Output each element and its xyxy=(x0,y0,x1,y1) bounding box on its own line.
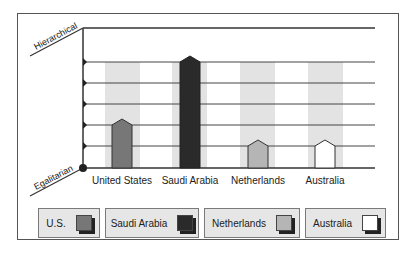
legend-swatch-us xyxy=(76,215,92,231)
legend-swatch-saudi-arabia xyxy=(177,215,193,231)
legend-label-australia: Australia xyxy=(313,218,352,229)
bar-united-states xyxy=(112,119,132,168)
bar-australia xyxy=(315,140,335,168)
hierarchical-label: Hierarchical xyxy=(32,21,79,52)
legend-item-australia: Australia xyxy=(305,208,386,238)
legend-item-saudi-arabia: Saudi Arabia xyxy=(105,208,199,238)
legend-swatch-netherlands xyxy=(276,215,292,231)
x-label-saudi-arabia: Saudi Arabia xyxy=(162,175,219,186)
legend-item-netherlands: Netherlands xyxy=(204,208,300,238)
legend-label-saudi-arabia: Saudi Arabia xyxy=(111,218,168,229)
legend: U.S. Saudi Arabia Netherlands Australia xyxy=(0,208,416,240)
egalitarian-label: Egalitarian xyxy=(32,163,74,192)
legend-item-us: U.S. xyxy=(38,208,100,238)
x-label-australia: Australia xyxy=(306,175,345,186)
bar-saudi-arabia xyxy=(180,56,200,168)
bar-netherlands xyxy=(248,140,268,168)
legend-label-us: U.S. xyxy=(46,218,65,229)
x-label-netherlands: Netherlands xyxy=(231,175,285,186)
category-stripes xyxy=(105,62,343,168)
legend-label-netherlands: Netherlands xyxy=(212,218,266,229)
legend-swatch-australia xyxy=(362,215,378,231)
x-label-united-states: United States xyxy=(92,175,152,186)
